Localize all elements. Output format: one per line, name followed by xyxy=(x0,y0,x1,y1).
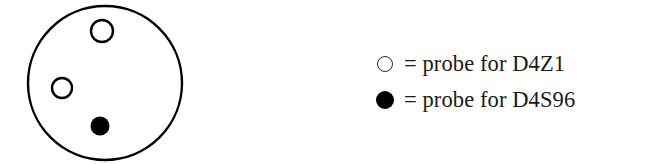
signal-open-left xyxy=(52,78,72,98)
figure-root: = probe for D4Z1 = probe for D4S96 xyxy=(0,0,647,164)
legend-item-label: = probe for D4Z1 xyxy=(404,53,565,76)
legend-item-d4z1: = probe for D4Z1 xyxy=(374,46,639,82)
signal-filled-lower xyxy=(91,117,110,136)
legend: = probe for D4Z1 = probe for D4S96 xyxy=(374,46,639,118)
nucleus-diagram xyxy=(0,0,200,164)
signal-open-upper xyxy=(91,20,113,42)
filled-circle-icon xyxy=(374,90,395,111)
nucleus-svg xyxy=(0,0,200,164)
open-circle-icon xyxy=(374,54,395,75)
legend-item-d4s96: = probe for D4S96 xyxy=(374,82,639,118)
legend-item-label: = probe for D4S96 xyxy=(404,89,575,112)
